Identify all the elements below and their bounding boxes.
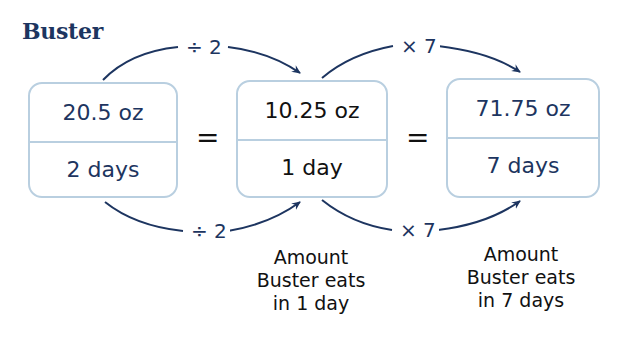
caption-7-days: Amount Buster eats in 7 days (446, 243, 596, 312)
caption-line: in 7 days (446, 289, 596, 312)
caption-line: Buster eats (236, 269, 386, 292)
caption-line: Amount (236, 246, 386, 269)
operator-bottom-left: ÷ 2 (188, 221, 230, 241)
caption-line: Amount (446, 243, 596, 266)
ratio-numerator: 71.75 oz (448, 80, 598, 137)
ratio-denominator: 2 days (30, 142, 176, 198)
ratio-box-2-days: 20.5 oz 2 days (28, 82, 178, 198)
equals-sign: = (406, 124, 429, 152)
caption-line: in 1 day (236, 292, 386, 315)
ratio-numerator: 20.5 oz (30, 84, 176, 141)
ratio-denominator: 7 days (448, 138, 598, 194)
arrow-bottom-multiply (322, 200, 392, 230)
equals-sign: = (196, 124, 219, 152)
caption-line: Buster eats (446, 266, 596, 289)
ratio-box-1-day: 10.25 oz 1 day (236, 80, 388, 198)
operator-bottom-right: × 7 (397, 220, 439, 240)
arrow-bottom-divide (105, 202, 183, 231)
operator-top-right: × 7 (398, 36, 440, 56)
arrow-top-divide-head (228, 47, 300, 73)
ratio-denominator: 1 day (238, 140, 386, 196)
arrow-top-multiply (322, 46, 393, 78)
arrow-bottom-multiply-head (438, 201, 520, 230)
operator-top-left: ÷ 2 (183, 37, 225, 57)
arrow-bottom-divide-head (228, 202, 300, 231)
caption-1-day: Amount Buster eats in 1 day (236, 246, 386, 315)
ratio-box-7-days: 71.75 oz 7 days (446, 78, 600, 198)
arrow-top-multiply-head (438, 46, 520, 72)
arrow-top-divide (103, 47, 178, 80)
ratio-numerator: 10.25 oz (238, 82, 386, 139)
